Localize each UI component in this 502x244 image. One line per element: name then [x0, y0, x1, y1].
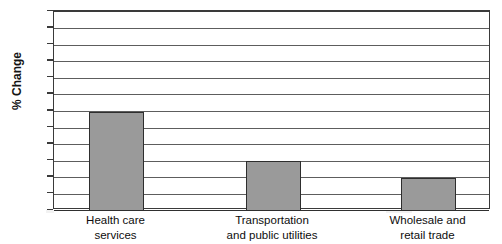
x-axis-label-line: Transportation — [197, 213, 347, 228]
x-axis-label-1: Transportationand public utilities — [197, 213, 347, 243]
bar-1 — [246, 161, 301, 211]
x-axis-label-line: Wholesale and — [353, 213, 502, 228]
gridline-35 — [54, 94, 489, 95]
x-axis-label-line: services — [41, 228, 191, 243]
scan-artifact — [46, 210, 54, 213]
y-axis-title: % Change — [10, 26, 24, 136]
gridline-55 — [54, 28, 489, 29]
bar-chart: % Change 605550454035302520151050 Health… — [0, 0, 502, 244]
gridline-50 — [54, 45, 489, 46]
scan-artifact — [386, 211, 412, 213]
x-axis-label-0: Health careservices — [41, 213, 191, 243]
gridline-40 — [54, 78, 489, 79]
bar-2 — [401, 178, 456, 211]
x-axis-label-line: retail trade — [353, 228, 502, 243]
x-axis-label-2: Wholesale andretail trade — [353, 213, 502, 243]
x-axis-label-line: Health care — [41, 213, 191, 228]
x-axis-label-line: and public utilities — [197, 228, 347, 243]
bar-0 — [89, 112, 144, 212]
plot-area — [53, 10, 490, 209]
gridline-45 — [54, 61, 489, 62]
chart-title-clipped — [150, 0, 350, 2]
